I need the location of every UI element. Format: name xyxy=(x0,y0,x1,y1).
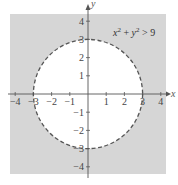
x-tick-label: −4 xyxy=(10,96,21,107)
x-tick-label: −1 xyxy=(64,96,75,107)
inequality-rest: > 9 xyxy=(140,27,156,38)
y-tick-label: −3 xyxy=(73,143,84,154)
x-tick-label: −3 xyxy=(28,96,39,107)
y-tick-label: 4 xyxy=(79,16,84,27)
y-axis-arrow-icon xyxy=(86,4,91,10)
y-tick-label: −4 xyxy=(73,161,84,172)
y-tick-label: 2 xyxy=(79,52,84,63)
y-tick-label: 3 xyxy=(79,34,84,45)
x-tick-label: 1 xyxy=(104,96,109,107)
inequality-plot: −4−3−2−11234 4321−1−2−3−4 x y x2 + y2 > … xyxy=(0,0,178,185)
x-tick-label: 4 xyxy=(158,96,163,107)
x-tick-label: −2 xyxy=(46,96,57,107)
x-tick-label: 2 xyxy=(122,96,127,107)
y-axis-label: y xyxy=(90,0,96,9)
y-tick-label: −2 xyxy=(73,125,84,136)
x-tick-label: 3 xyxy=(140,96,145,107)
y-tick-label: 1 xyxy=(79,70,84,81)
x-axis-label: x xyxy=(170,88,176,99)
inequality-plus: + xyxy=(121,27,132,38)
y-tick-label: −1 xyxy=(73,107,84,118)
